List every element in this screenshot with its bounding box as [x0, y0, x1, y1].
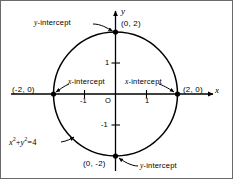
leader-y-intercept-bottom [119, 158, 138, 166]
point-marker-right [175, 91, 180, 96]
x-tick-label-pos1: 1 [145, 97, 149, 105]
point-marker-bottom [113, 153, 118, 158]
figure-container: x y O -1 1 1 -1 (0, 2) (2, 0) (-2, 0) (0… [0, 0, 233, 179]
y-axis-label: y [121, 7, 125, 16]
callout-y-intercept-top-rest: -intercept [38, 18, 71, 27]
x-axis-label: x [215, 86, 219, 95]
origin-label: O [105, 97, 111, 105]
point-label-bottom: (0, -2) [83, 160, 106, 168]
equation-label: x2+y2=4 [9, 138, 36, 147]
point-marker-left [51, 91, 56, 96]
leader-equation [61, 137, 74, 142]
callout-y-intercept-top: y-intercept [34, 19, 71, 27]
x-tick-label-neg1: -1 [80, 97, 87, 105]
point-label-left: (-2, 0) [12, 86, 35, 94]
callout-x-intercept-right: x-intercept [125, 78, 162, 86]
callout-y-intercept-bottom-rest: -intercept [144, 161, 177, 170]
point-label-top: (0, 2) [121, 20, 141, 28]
y-tick-label-neg1: -1 [101, 121, 108, 129]
callout-x-intercept-left: x-intercept [68, 78, 105, 86]
callout-x-intercept-right-rest: -intercept [129, 77, 162, 86]
callout-y-intercept-bottom: y-intercept [140, 162, 177, 170]
equation-rhs: 4 [32, 137, 36, 147]
point-label-right: (2, 0) [183, 86, 203, 94]
y-tick-label-pos1: 1 [105, 59, 109, 67]
point-marker-top [113, 29, 118, 34]
leader-y-intercept-top [93, 24, 113, 31]
callout-x-intercept-left-rest: -intercept [72, 77, 105, 86]
